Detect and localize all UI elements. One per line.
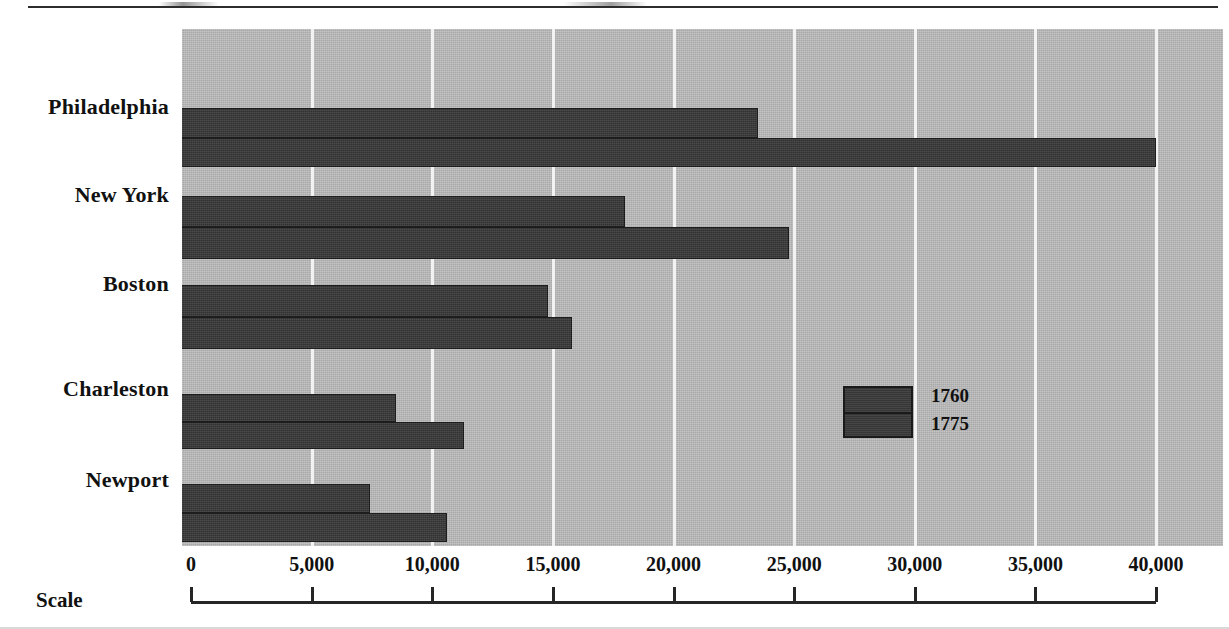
legend-swatch-1760 <box>845 388 911 412</box>
bar-newport-1775 <box>182 513 447 542</box>
page-top-rule <box>28 6 1218 8</box>
category-label-new-york: New York <box>75 182 169 208</box>
category-label-philadelphia: Philadelphia <box>48 94 169 120</box>
x-tick-label-10000: 10,000 <box>405 553 460 576</box>
x-tick-25000 <box>793 587 796 602</box>
gridline-20000 <box>673 29 676 546</box>
x-tick-label-15000: 15,000 <box>525 553 580 576</box>
bar-philadelphia-1760 <box>182 108 758 138</box>
legend-swatch-1775 <box>845 412 911 436</box>
x-tick-label-5000: 5,000 <box>289 553 334 576</box>
x-tick-label-20000: 20,000 <box>646 553 701 576</box>
bar-philadelphia-1775 <box>182 138 1156 167</box>
bar-chart: 1760 1775 Scale PhiladelphiaNew YorkBost… <box>0 0 1229 629</box>
category-label-boston: Boston <box>103 271 169 297</box>
plot-area <box>182 29 1223 546</box>
x-axis-title: Scale <box>36 588 83 613</box>
chart-legend: 1760 1775 <box>843 386 1023 440</box>
bar-boston-1775 <box>182 317 572 349</box>
gridline-25000 <box>793 29 796 546</box>
x-tick-label-30000: 30,000 <box>887 553 942 576</box>
x-tick-30000 <box>914 587 917 602</box>
gridline-30000 <box>914 29 917 546</box>
gridline-15000 <box>552 29 555 546</box>
bar-charleston-1760 <box>182 394 396 422</box>
x-tick-15000 <box>552 587 555 602</box>
x-tick-label-35000: 35,000 <box>1008 553 1063 576</box>
x-tick-35000 <box>1034 587 1037 602</box>
legend-label-1760: 1760 <box>931 385 969 407</box>
gridline-35000 <box>1034 29 1037 546</box>
x-tick-label-0: 0 <box>186 553 196 576</box>
x-tick-label-25000: 25,000 <box>767 553 822 576</box>
x-tick-0 <box>190 587 193 602</box>
x-tick-10000 <box>431 587 434 602</box>
category-label-charleston: Charleston <box>63 376 169 402</box>
x-tick-40000 <box>1155 587 1158 602</box>
bar-charleston-1775 <box>182 422 464 449</box>
gridline-40000 <box>1155 29 1158 546</box>
category-label-newport: Newport <box>86 467 169 493</box>
bar-new-york-1775 <box>182 227 789 259</box>
legend-label-1775: 1775 <box>931 413 969 435</box>
x-tick-5000 <box>311 587 314 602</box>
bar-boston-1760 <box>182 285 548 317</box>
x-tick-20000 <box>673 587 676 602</box>
x-tick-label-40000: 40,000 <box>1129 553 1184 576</box>
legend-swatch-group <box>843 386 913 438</box>
bar-newport-1760 <box>182 484 370 513</box>
bar-new-york-1760 <box>182 196 625 227</box>
